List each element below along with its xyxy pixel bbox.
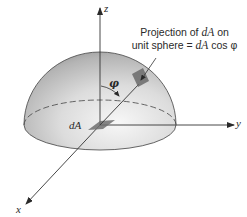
caption-var: dA — [196, 39, 209, 51]
caption-text: unit sphere = — [132, 39, 196, 51]
caption-text: cos φ — [208, 39, 237, 51]
area-element-label: dA — [69, 119, 81, 131]
caption-line-1: Projection of dA on — [122, 26, 247, 39]
z-axis-label: z — [104, 2, 108, 14]
angle-phi-label: φ — [109, 77, 119, 90]
caption-line-2: unit sphere = dA cos φ — [122, 39, 247, 52]
y-axis-label: y — [236, 117, 241, 129]
projection-caption: Projection of dA on unit sphere = dA cos… — [122, 26, 247, 52]
caption-text: on — [214, 26, 229, 38]
caption-text: Projection of — [140, 26, 201, 38]
caption-var: dA — [201, 26, 214, 38]
hemisphere-diagram: z y x dA φ Projection of dA on unit sphe… — [0, 0, 247, 217]
x-axis-label: x — [16, 203, 21, 215]
